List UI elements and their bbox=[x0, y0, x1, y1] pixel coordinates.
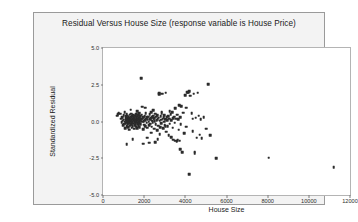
x-axis-tick-label: 8000 bbox=[261, 198, 273, 204]
scatter-point bbox=[191, 130, 194, 133]
scatter-point bbox=[185, 125, 188, 128]
scatter-point bbox=[164, 92, 167, 95]
scatter-point bbox=[152, 109, 155, 112]
scatter-point bbox=[179, 148, 182, 151]
scatter-point bbox=[145, 112, 148, 115]
scatter-point bbox=[169, 122, 172, 125]
scatter-point bbox=[146, 136, 149, 139]
scatter-point bbox=[148, 142, 151, 145]
scatter-point bbox=[176, 114, 179, 117]
y-axis-tick-label: -5.0 bbox=[89, 192, 99, 198]
scatter-point bbox=[203, 116, 206, 119]
scatter-point bbox=[180, 123, 183, 126]
scatter-point bbox=[332, 166, 335, 169]
scatter-point bbox=[136, 110, 139, 113]
scatter-point bbox=[179, 116, 182, 119]
y-axis-tick-mark bbox=[101, 48, 104, 49]
y-axis-tick-mark bbox=[101, 121, 104, 122]
scatter-point bbox=[180, 105, 183, 108]
scatter-point bbox=[142, 142, 145, 145]
scatter-point bbox=[195, 136, 198, 139]
scatter-point bbox=[193, 152, 196, 155]
scatter-point bbox=[177, 118, 180, 121]
x-axis-tick-label: 10000 bbox=[301, 198, 317, 204]
scatter-point bbox=[154, 141, 157, 144]
scatter-point bbox=[215, 157, 218, 160]
x-axis-title: House Size bbox=[103, 206, 350, 213]
scatter-point bbox=[156, 138, 159, 141]
scatter-point bbox=[205, 128, 208, 131]
x-axis-tick-label: 0 bbox=[101, 198, 104, 204]
x-axis-tick-label: 6000 bbox=[220, 198, 232, 204]
scatter-point bbox=[185, 106, 188, 109]
scatter-point bbox=[191, 117, 194, 120]
plot-area: 5.02.50.0-2.5-5.0 0200040006000800010000… bbox=[102, 47, 351, 196]
scatter-point bbox=[156, 129, 159, 132]
scatter-point bbox=[165, 130, 168, 133]
y-axis-title-label: Standardized Residual bbox=[49, 86, 56, 156]
chart-figure-frame: Residual Versus House Size (response var… bbox=[33, 12, 325, 205]
scatter-point bbox=[171, 126, 174, 129]
y-axis-tick-label: 2.5 bbox=[91, 82, 99, 88]
scatter-point bbox=[163, 120, 166, 123]
scatter-point bbox=[174, 107, 177, 110]
x-axis-tick-label: 4000 bbox=[179, 198, 191, 204]
scatter-point bbox=[188, 90, 191, 93]
scatter-point bbox=[173, 121, 176, 124]
x-axis-tick-label: 2000 bbox=[138, 198, 150, 204]
scatter-points-layer bbox=[103, 48, 350, 195]
scatter-point bbox=[169, 110, 172, 113]
y-axis-tick-label: 0.0 bbox=[91, 119, 99, 125]
chart-title: Residual Versus House Size (response var… bbox=[34, 19, 324, 28]
scatter-point bbox=[119, 113, 122, 116]
scatter-point bbox=[181, 151, 184, 154]
scatter-point bbox=[196, 92, 199, 95]
scatter-point bbox=[201, 137, 204, 140]
scatter-point bbox=[144, 106, 147, 109]
y-axis-title: Standardized Residual bbox=[47, 47, 57, 196]
scatter-point bbox=[209, 134, 212, 137]
scatter-point bbox=[198, 133, 201, 136]
scatter-point bbox=[161, 92, 164, 95]
x-axis-tick-label: 12000 bbox=[342, 198, 358, 204]
scatter-point bbox=[140, 77, 143, 80]
scatter-point bbox=[160, 110, 163, 113]
y-axis-tick-label: 5.0 bbox=[91, 45, 99, 51]
scatter-point bbox=[267, 156, 270, 159]
scatter-point bbox=[182, 111, 185, 114]
scatter-point bbox=[190, 112, 193, 115]
scatter-point bbox=[142, 128, 145, 131]
scatter-point bbox=[140, 123, 143, 126]
scatter-point bbox=[129, 108, 132, 111]
scatter-point bbox=[197, 114, 200, 117]
y-axis-tick-label: -2.5 bbox=[89, 155, 99, 161]
scatter-point bbox=[188, 173, 191, 176]
scatter-point bbox=[178, 140, 181, 143]
scatter-point bbox=[177, 128, 180, 131]
scatter-point bbox=[158, 133, 161, 136]
y-axis-tick-mark bbox=[101, 84, 104, 85]
scatter-point bbox=[183, 132, 186, 135]
scatter-point bbox=[125, 143, 128, 146]
scatter-point bbox=[117, 113, 120, 116]
scatter-point bbox=[132, 138, 135, 141]
scatter-point bbox=[164, 125, 167, 128]
scatter-point bbox=[150, 131, 153, 134]
scatter-point bbox=[192, 92, 195, 95]
scatter-point bbox=[146, 126, 149, 129]
y-axis-tick-mark bbox=[101, 158, 104, 159]
scatter-point bbox=[207, 83, 210, 86]
